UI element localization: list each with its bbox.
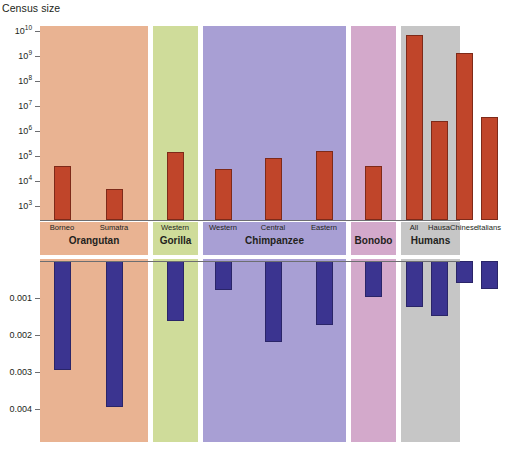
group-label-gorilla: Gorilla bbox=[153, 235, 198, 246]
census-bar bbox=[215, 169, 232, 220]
diversity-bar bbox=[316, 261, 333, 325]
census-bar bbox=[431, 121, 448, 220]
census-size-axis-title: Census size bbox=[2, 2, 60, 14]
diversity-bar bbox=[365, 261, 382, 297]
diversity-bar bbox=[167, 261, 184, 321]
diversity-axis-tick bbox=[35, 372, 40, 373]
diversity-bar bbox=[431, 261, 448, 316]
census-bar bbox=[406, 35, 423, 220]
nucleotide-diversity-chart: 0.0010.0020.0030.004 bbox=[40, 259, 460, 442]
group-label-chimpanzee: Chimpanzee bbox=[203, 235, 346, 246]
group-label-humans: Humans bbox=[401, 235, 460, 246]
column-label-borneo-0: Borneo bbox=[36, 223, 88, 232]
census-bar bbox=[265, 158, 282, 220]
group-chimpanzee: WesternCentralEasternChimpanzee bbox=[203, 222, 346, 255]
census-bar bbox=[456, 53, 473, 220]
group-label-orangutan: Orangutan bbox=[40, 235, 148, 246]
census-axis-tick-label: 103 bbox=[0, 201, 32, 211]
diversity-bar bbox=[215, 261, 232, 290]
census-axis-tick-label: 107 bbox=[0, 101, 32, 111]
diversity-bar bbox=[106, 261, 123, 407]
diversity-axis-tick-label: 0.002 bbox=[0, 330, 32, 340]
census-axis-tick bbox=[35, 181, 40, 182]
census-axis-tick-label: 106 bbox=[0, 126, 32, 136]
diversity-axis-tick-label: 0.003 bbox=[0, 367, 32, 377]
census-bar bbox=[481, 117, 498, 220]
census-bar bbox=[365, 166, 382, 220]
group-orangutan: BorneoSumatraOrangutan bbox=[40, 222, 148, 255]
census-baseline bbox=[40, 220, 460, 221]
census-size-chart: 1010109108107106105104103 bbox=[40, 26, 460, 221]
diversity-axis-tick bbox=[35, 335, 40, 336]
diversity-axis-tick-label: 0.004 bbox=[0, 404, 32, 414]
diversity-bar bbox=[54, 261, 71, 370]
census-axis-tick-label: 109 bbox=[0, 51, 32, 61]
diversity-bar bbox=[406, 261, 423, 307]
census-axis-tick-label: 108 bbox=[0, 76, 32, 86]
census-axis-tick-label: 105 bbox=[0, 151, 32, 161]
diversity-axis-tick bbox=[35, 298, 40, 299]
census-bar bbox=[167, 152, 184, 220]
diversity-bar bbox=[265, 261, 282, 342]
column-label-italians-10: Italians bbox=[463, 223, 506, 232]
census-axis-tick bbox=[35, 106, 40, 107]
diversity-axis-tick-label: 0.001 bbox=[0, 293, 32, 303]
group-label-bonobo: Bonobo bbox=[351, 235, 396, 246]
column-label-western-3: Western bbox=[197, 223, 249, 232]
diversity-topline bbox=[40, 261, 460, 262]
column-label-eastern-5: Eastern bbox=[298, 223, 350, 232]
diversity-bar bbox=[481, 261, 498, 289]
census-bar bbox=[106, 189, 123, 220]
group-gorilla: WesternGorilla bbox=[153, 222, 198, 255]
census-bar bbox=[316, 151, 333, 220]
census-bar bbox=[54, 166, 71, 220]
group-label-strip: BorneoSumatraOrangutanWesternGorillaWest… bbox=[40, 222, 460, 255]
census-axis-tick bbox=[35, 56, 40, 57]
diversity-axis-tick bbox=[35, 409, 40, 410]
census-axis-tick-label: 1010 bbox=[0, 26, 32, 36]
figure-caption-cropped bbox=[4, 444, 304, 452]
group-humans: AllHausaChineseItaliansHumans bbox=[401, 222, 460, 255]
diversity-bar bbox=[456, 261, 473, 283]
column-label-western-2: Western bbox=[149, 223, 201, 232]
census-axis-tick bbox=[35, 131, 40, 132]
census-axis-tick bbox=[35, 31, 40, 32]
census-axis-tick bbox=[35, 206, 40, 207]
census-axis-tick bbox=[35, 81, 40, 82]
census-axis-tick-label: 104 bbox=[0, 176, 32, 186]
column-label-sumatra-1: Sumatra bbox=[88, 223, 140, 232]
census-axis-tick bbox=[35, 156, 40, 157]
column-label-central-4: Central bbox=[247, 223, 299, 232]
